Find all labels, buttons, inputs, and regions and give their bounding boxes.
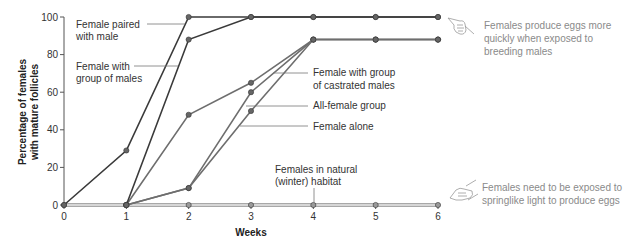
svg-text:Percentage of females: Percentage of females bbox=[17, 58, 28, 165]
series-lines bbox=[61, 14, 440, 207]
data-point bbox=[124, 148, 129, 153]
data-point bbox=[248, 80, 253, 85]
data-point bbox=[311, 37, 316, 42]
svg-text:Females need to be exposed to: Females need to be exposed to bbox=[482, 182, 623, 193]
label-natural: Females in natural bbox=[275, 164, 357, 175]
data-point bbox=[186, 37, 191, 42]
svg-text:quickly when exposed to: quickly when exposed to bbox=[484, 33, 593, 44]
svg-text:springlike light to produce eg: springlike light to produce eggs bbox=[482, 195, 620, 206]
data-point bbox=[248, 108, 253, 113]
y-tick-label: 80 bbox=[47, 49, 59, 60]
svg-text:Females produce eggs more: Females produce eggs more bbox=[484, 20, 612, 31]
data-point bbox=[186, 185, 191, 190]
x-tick-label: 1 bbox=[124, 211, 130, 222]
data-point bbox=[435, 37, 440, 42]
data-point bbox=[373, 37, 378, 42]
label-group-males-2: group of males bbox=[76, 73, 142, 84]
series-labels: Female paired with male Female with grou… bbox=[75, 19, 396, 203]
series-5 bbox=[61, 202, 440, 207]
annotation-breeding-males: Females produce eggs more quickly when e… bbox=[448, 18, 612, 57]
label-group-males: Female with bbox=[76, 61, 130, 72]
data-point bbox=[373, 202, 378, 207]
data-point bbox=[61, 202, 66, 207]
label-paired: Female paired bbox=[76, 19, 140, 30]
data-point bbox=[311, 202, 316, 207]
svg-text:with mature follicles: with mature follicles bbox=[29, 63, 40, 161]
annotation-springlike-light: Females need to be exposed to springlike… bbox=[450, 180, 623, 206]
label-castrated: Female with group bbox=[313, 67, 396, 78]
data-point bbox=[186, 202, 191, 207]
x-tick-label: 3 bbox=[248, 211, 254, 222]
label-castrated-2: of castrated males bbox=[313, 80, 395, 91]
data-point bbox=[311, 14, 316, 19]
label-all-female: All-female group bbox=[313, 100, 386, 111]
y-tick-label: 60 bbox=[47, 87, 59, 98]
y-ticks: 020406080100 bbox=[41, 12, 64, 211]
x-tick-label: 6 bbox=[435, 211, 441, 222]
y-tick-label: 100 bbox=[41, 12, 58, 23]
y-tick-label: 0 bbox=[52, 200, 58, 211]
label-natural-2: (winter) habitat bbox=[275, 176, 341, 187]
svg-text:breeding males: breeding males bbox=[484, 46, 552, 57]
label-paired-2: with male bbox=[75, 31, 119, 42]
data-point bbox=[435, 202, 440, 207]
pointing-hand-icon bbox=[448, 18, 474, 34]
data-point bbox=[248, 14, 253, 19]
label-alone: Female alone bbox=[313, 121, 374, 132]
data-point bbox=[186, 112, 191, 117]
data-point bbox=[248, 90, 253, 95]
data-point bbox=[248, 202, 253, 207]
x-tick-label: 4 bbox=[311, 211, 317, 222]
pointing-hand-icon bbox=[450, 180, 478, 200]
x-tick-label: 2 bbox=[186, 211, 192, 222]
y-axis-title: Percentage of females with mature follic… bbox=[17, 58, 40, 165]
data-point bbox=[186, 14, 191, 19]
y-tick-label: 20 bbox=[47, 162, 59, 173]
data-point bbox=[124, 202, 129, 207]
data-point bbox=[435, 14, 440, 19]
y-tick-label: 40 bbox=[47, 124, 59, 135]
x-tick-label: 0 bbox=[61, 211, 67, 222]
x-axis-title: Weeks bbox=[235, 227, 267, 238]
line-chart: Percentage of females with mature follic… bbox=[0, 0, 640, 252]
data-point bbox=[373, 14, 378, 19]
x-tick-label: 5 bbox=[373, 211, 379, 222]
